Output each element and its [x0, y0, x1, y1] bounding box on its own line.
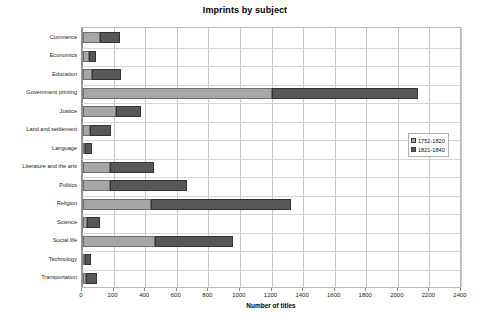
- x-tick-mark: [271, 288, 272, 291]
- legend-swatch-icon: [411, 147, 416, 152]
- bar-segment[interactable]: [83, 125, 90, 136]
- bar-row[interactable]: [83, 66, 461, 83]
- category-label: Literature and the arts: [0, 163, 77, 170]
- chart-title: Imprints by subject: [0, 5, 490, 15]
- x-tick-mark: [113, 288, 114, 291]
- category-label: Politics: [0, 182, 77, 189]
- bar-row[interactable]: [83, 103, 461, 120]
- gridline-vertical: [461, 28, 462, 287]
- bar-row[interactable]: [83, 159, 461, 176]
- bar-row[interactable]: [83, 177, 461, 194]
- x-tick-mark: [397, 288, 398, 291]
- legend-label: 1821-1840: [418, 147, 445, 153]
- bar-segment[interactable]: [110, 162, 154, 173]
- bar-segment[interactable]: [83, 199, 151, 210]
- bar-row[interactable]: [83, 196, 461, 213]
- bar-segment[interactable]: [85, 254, 91, 265]
- bar-segment[interactable]: [151, 199, 292, 210]
- bar-segment[interactable]: [90, 125, 111, 136]
- bar-row[interactable]: [83, 251, 461, 268]
- bar-segment[interactable]: [110, 180, 187, 191]
- bar-segment[interactable]: [92, 69, 121, 80]
- bar-segment[interactable]: [83, 32, 100, 43]
- x-tick-mark: [239, 288, 240, 291]
- bar-segment[interactable]: [100, 32, 120, 43]
- bar-row[interactable]: [83, 85, 461, 102]
- x-tick-mark: [81, 288, 82, 291]
- bar-segment[interactable]: [83, 162, 110, 173]
- category-label: Land and settlement: [0, 126, 77, 133]
- category-label: Social life: [0, 237, 77, 244]
- bar-row[interactable]: [83, 122, 461, 139]
- x-tick-mark: [207, 288, 208, 291]
- legend-item[interactable]: 1752-1820: [411, 136, 445, 145]
- bar-row[interactable]: [83, 214, 461, 231]
- category-label: Justice: [0, 108, 77, 115]
- bar-row[interactable]: [83, 233, 461, 250]
- bar-segment[interactable]: [83, 236, 155, 247]
- x-axis-label: Number of titles: [81, 302, 461, 309]
- bar-row[interactable]: [83, 270, 461, 287]
- x-tick-label: 2400: [440, 292, 480, 298]
- bar-row[interactable]: [83, 48, 461, 65]
- category-label: Commerce: [0, 34, 77, 41]
- bar-segment[interactable]: [89, 51, 96, 62]
- category-label: Government printing: [0, 89, 77, 96]
- bar-segment[interactable]: [85, 143, 92, 154]
- plot-area: [81, 27, 461, 288]
- x-tick-mark: [302, 288, 303, 291]
- category-label: Education: [0, 71, 77, 78]
- bar-row[interactable]: [83, 140, 461, 157]
- x-tick-mark: [428, 288, 429, 291]
- legend-swatch-icon: [411, 138, 416, 143]
- category-label: Technology: [0, 256, 77, 263]
- category-label: Science: [0, 219, 77, 226]
- bar-segment[interactable]: [272, 88, 418, 99]
- category-label: Economics: [0, 52, 77, 59]
- x-tick-mark: [460, 288, 461, 291]
- bar-segment[interactable]: [83, 180, 110, 191]
- category-label: Language: [0, 145, 77, 152]
- bar-row[interactable]: [83, 29, 461, 46]
- x-tick-mark: [176, 288, 177, 291]
- category-label: Religion: [0, 200, 77, 207]
- bar-segment[interactable]: [155, 236, 233, 247]
- chart-legend: 1752-18201821-1840: [408, 133, 449, 157]
- x-tick-mark: [365, 288, 366, 291]
- bar-segment[interactable]: [83, 88, 272, 99]
- bar-segment[interactable]: [116, 106, 141, 117]
- bar-segment[interactable]: [87, 217, 100, 228]
- legend-item[interactable]: 1821-1840: [411, 145, 445, 154]
- x-tick-mark: [144, 288, 145, 291]
- chart-container: Imprints by subject 02004006008001000120…: [0, 0, 490, 315]
- bar-segment[interactable]: [86, 273, 97, 284]
- bar-segment[interactable]: [83, 69, 92, 80]
- x-tick-mark: [334, 288, 335, 291]
- bar-segment[interactable]: [83, 106, 116, 117]
- category-label: Transportation: [0, 274, 77, 281]
- legend-label: 1752-1820: [418, 138, 445, 144]
